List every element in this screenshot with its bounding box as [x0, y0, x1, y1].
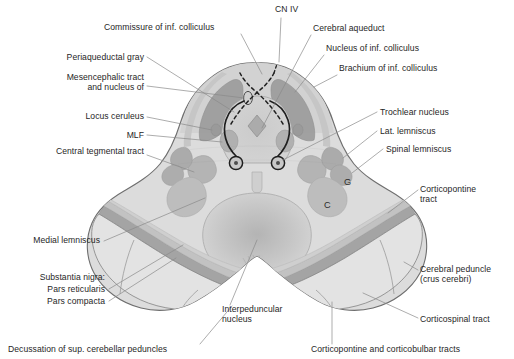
- label-medial-lemniscus: Medial lemniscus: [0, 235, 100, 245]
- label-mlf: MLF: [0, 130, 144, 140]
- label-cerebral-peduncle: Cerebral peduncle (crus cerebri): [420, 264, 491, 285]
- leader-cn-iv: [279, 18, 281, 62]
- label-commissure-inf-colliculus: Commissure of inf. colliculus: [104, 22, 214, 32]
- in-figure-marker-g: G: [344, 177, 351, 187]
- label-substantia-nigra: Substantia nigra:: [0, 272, 105, 282]
- label-cerebral-aqueduct: Cerebral aqueduct: [313, 23, 385, 33]
- locus-ceruleus-left: [211, 124, 221, 136]
- in-figure-marker-c: C: [324, 200, 331, 210]
- label-central-tegmental-tract: Central tegmental tract: [0, 146, 144, 156]
- label-cn-iv: CN IV: [275, 4, 298, 14]
- label-pars-compacta: Pars compacta: [0, 296, 105, 306]
- label-periaqueductal-gray: Periaqueductal gray: [0, 52, 144, 62]
- label-trochlear-nucleus: Trochlear nucleus: [380, 107, 449, 117]
- section-body: [87, 60, 426, 312]
- midline-raphe: [252, 172, 262, 193]
- mlf-right: [276, 130, 294, 152]
- interpeduncular-nucleus-body: [243, 272, 271, 293]
- trochlear-nucleus-right: [271, 156, 284, 169]
- label-mesencephalic-tract: Mesencephalic tract and nucleus of: [0, 72, 144, 93]
- leader-lat-lemniscus: [343, 131, 377, 158]
- label-nucleus-inf-colliculus: Nucleus of inf. colliculus: [326, 43, 419, 53]
- leader-spinal-lemniscus: [352, 149, 383, 173]
- label-pars-reticularis: Pars reticularis: [0, 284, 105, 294]
- label-locus-ceruleus: Locus ceruleus: [0, 111, 144, 121]
- leader-brachium-inf-colliculus: [314, 75, 337, 87]
- mlf-left: [220, 130, 238, 152]
- label-corticopontine-corticobulbar: Corticopontine and corticobulbar tracts: [311, 344, 460, 354]
- label-interpeduncular-nucleus: Interpeduncular nucleus: [222, 304, 282, 325]
- locus-ceruleus-right: [293, 124, 303, 136]
- label-spinal-lemniscus: Spinal lemniscus: [386, 144, 451, 154]
- label-decussation-scp: Decussation of sup. cerebellar peduncles: [8, 344, 167, 354]
- label-brachium-inf-colliculus: Brachium of inf. colliculus: [339, 63, 437, 73]
- label-corticopontine-tract: Corticopontine tract: [420, 184, 476, 205]
- label-corticospinal-tract: Corticospinal tract: [420, 314, 490, 324]
- trochlear-nucleus-left: [229, 156, 242, 169]
- label-lat-lemniscus: Lat. lemniscus: [380, 126, 436, 136]
